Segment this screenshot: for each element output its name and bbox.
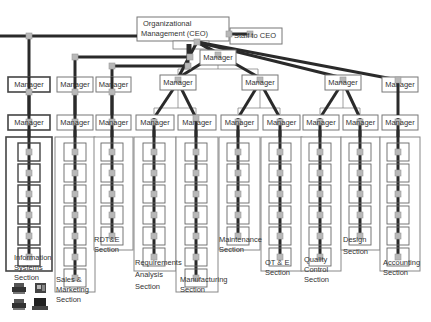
manager-label: Manager <box>382 80 418 89</box>
section-label-requirements-analysis: Requirements <box>135 258 182 268</box>
section-label-quality-control: Control <box>304 265 328 275</box>
unit-node <box>193 254 199 260</box>
section-label-requirements-analysis: Analysis <box>135 270 163 280</box>
manager-label: Manager <box>382 118 418 127</box>
unit-node <box>317 233 323 239</box>
section-label-information-systems: Information <box>14 253 52 263</box>
connector-node <box>72 89 78 95</box>
unit-node <box>72 254 78 260</box>
staff-label: Staff to CEO <box>234 31 284 40</box>
unit-node <box>357 170 363 176</box>
unit-node <box>395 170 401 176</box>
section-label-design: Design <box>343 235 366 245</box>
manager-label: Manager <box>136 118 174 127</box>
unit-node <box>277 170 283 176</box>
unit-node <box>151 170 157 176</box>
manager-label: Manager <box>263 118 300 127</box>
manager-label: Manager <box>242 78 278 87</box>
computer-icon <box>32 296 48 314</box>
section-label-sales-marketing: Sales & <box>56 275 82 285</box>
unit-node <box>151 212 157 218</box>
section-label-rdte: RDT&E <box>94 235 119 245</box>
section-label-manufacturing: Section <box>180 285 205 295</box>
section-label-quality-control: Section <box>304 275 329 285</box>
section-label-sales-marketing: Section <box>56 295 81 305</box>
section-label-ot-e: Section <box>265 268 290 278</box>
unit-node <box>357 191 363 197</box>
unit-node <box>235 191 241 197</box>
section-label-maintenance: Section <box>219 245 244 255</box>
unit-node <box>193 149 199 155</box>
section-label-rdte: Section <box>94 245 119 255</box>
unit-node <box>72 233 78 239</box>
manager-label: Manager <box>57 80 93 89</box>
ceo-label-line1: Organizational <box>143 19 223 28</box>
connector-node <box>109 89 115 95</box>
unit-node <box>72 149 78 155</box>
unit-node <box>317 149 323 155</box>
section-label-ot-e: OT & E <box>265 258 289 268</box>
connector-node <box>185 63 191 69</box>
unit-node <box>277 212 283 218</box>
unit-node <box>109 212 115 218</box>
section-label-manufacturing: Manufacturing <box>180 275 228 285</box>
unit-node <box>395 191 401 197</box>
section-label-accounting: Accounting <box>383 258 420 268</box>
unit-node <box>357 212 363 218</box>
manager-label: Manager <box>8 118 50 127</box>
unit-node <box>26 191 32 197</box>
unit-node <box>151 191 157 197</box>
unit-node <box>193 170 199 176</box>
unit-node <box>277 191 283 197</box>
unit-node <box>109 170 115 176</box>
manager-label: Manager <box>325 78 361 87</box>
connector-node <box>26 33 32 39</box>
org-chart <box>0 0 431 322</box>
section-label-sales-marketing: Marketing <box>56 285 89 295</box>
manager-label: Manager <box>160 78 196 87</box>
manager-label: Manager <box>96 80 131 89</box>
unit-node <box>72 191 78 197</box>
printer-icon <box>11 296 27 314</box>
unit-node <box>317 170 323 176</box>
unit-node <box>26 233 32 239</box>
unit-node <box>26 149 32 155</box>
unit-node <box>193 233 199 239</box>
unit-node <box>26 212 32 218</box>
ceo-label-line2: Management (CEO) <box>141 29 231 38</box>
manager-label: Manager <box>8 80 50 89</box>
manager-label: Manager <box>57 118 93 127</box>
unit-node <box>235 149 241 155</box>
connector-node <box>187 54 193 60</box>
unit-node <box>72 170 78 176</box>
manager-label: Manager <box>200 53 236 62</box>
section-label-information-systems: Systems <box>14 263 43 273</box>
connector-node <box>109 63 115 69</box>
unit-node <box>357 149 363 155</box>
manager-label: Manager <box>178 118 216 127</box>
unit-node <box>395 149 401 155</box>
connector-node <box>72 54 78 60</box>
section-label-accounting: Section <box>383 268 408 278</box>
unit-node <box>109 191 115 197</box>
unit-node <box>151 149 157 155</box>
connector-node <box>26 89 32 95</box>
unit-node <box>72 212 78 218</box>
unit-node <box>193 212 199 218</box>
unit-node <box>193 191 199 197</box>
manager-label: Manager <box>221 118 258 127</box>
section-label-quality-control: Quality <box>304 255 327 265</box>
section-label-requirements-analysis: Section <box>135 282 160 292</box>
section-label-design: Section <box>343 247 368 257</box>
unit-node <box>277 233 283 239</box>
unit-node <box>277 149 283 155</box>
connector-node <box>194 39 200 45</box>
unit-node <box>395 233 401 239</box>
unit-node <box>109 149 115 155</box>
unit-node <box>235 212 241 218</box>
unit-node <box>235 170 241 176</box>
section-label-maintenance: Maintenance <box>219 235 262 245</box>
unit-node <box>151 233 157 239</box>
unit-node <box>317 212 323 218</box>
manager-label: Manager <box>96 118 131 127</box>
